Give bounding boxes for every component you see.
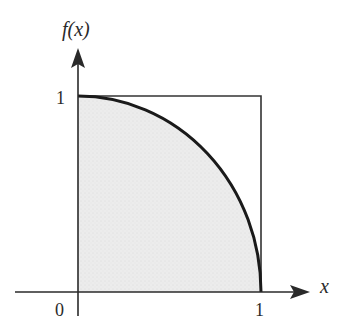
- x-tick-label: 1: [255, 300, 264, 320]
- y-tick-label: 1: [56, 88, 65, 108]
- origin-label: 0: [55, 300, 64, 320]
- y-axis-label: f(x): [62, 18, 90, 41]
- function-diagram: f(x) 1 0 1 x: [0, 0, 348, 330]
- shaded-area: [78, 96, 261, 292]
- x-axis-label: x: [319, 275, 329, 297]
